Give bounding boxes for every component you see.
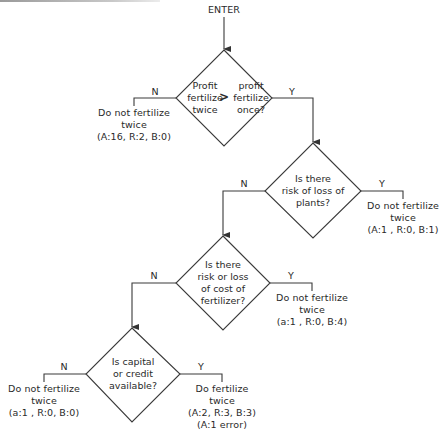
d1-no-connector — [134, 98, 176, 106]
outcome-1-line3: (A:16, R:2, B:0) — [97, 131, 171, 143]
d1-greater-than-operator: > — [219, 90, 229, 104]
outcome-5-line4: (A:1 error) — [188, 419, 256, 431]
d3-no-connector — [132, 283, 176, 327]
d4-question-text: Is capital or credit available? — [109, 356, 157, 392]
d2-yes-label: Y — [379, 178, 385, 189]
outcome-4-line1: Do not fertilize — [8, 383, 80, 395]
outcome-3-line2: twice — [276, 304, 348, 316]
enter-label: ENTER — [208, 4, 240, 16]
d3-yes-connector — [270, 283, 312, 291]
d1-yes-label: Y — [289, 86, 295, 97]
outcome-1: Do not fertilize twice (A:16, R:2, B:0) — [97, 107, 171, 143]
outcome-1-line2: twice — [97, 119, 171, 131]
outcome-5-line2: twice — [188, 395, 256, 407]
outcome-5: Do fertilize twice (A:2, R:3, B:3) (A:1 … — [188, 383, 256, 431]
d2-yes-connector — [361, 191, 403, 199]
d2-no-connector — [223, 191, 265, 235]
d4-yes-label: Y — [198, 361, 204, 372]
outcome-2-line2: twice — [367, 212, 439, 224]
d1-no-label: N — [151, 86, 158, 97]
d1-right-text: profit fertilize once? — [229, 80, 273, 116]
outcome-1-line1: Do not fertilize — [97, 107, 171, 119]
outcome-2: Do not fertilize twice (A:1 , R:0, B:1) — [367, 200, 439, 236]
outcome-4-line2: twice — [8, 395, 80, 407]
outcome-3: Do not fertilize twice (a:1 , R:0, B:4) — [276, 292, 348, 328]
outcome-2-line1: Do not fertilize — [367, 200, 439, 212]
d3-question-text: Is there risk or loss of cost of fertili… — [197, 259, 248, 307]
outcome-5-line1: Do fertilize — [188, 383, 256, 395]
d3-no-label: N — [150, 270, 157, 281]
d2-question-text: Is there risk of loss of plants? — [282, 173, 345, 209]
outcome-4-line3: (a:1 , R:0, B:0) — [8, 407, 80, 419]
d3-yes-label: Y — [288, 270, 294, 281]
d4-yes-connector — [180, 374, 222, 382]
outcome-3-line1: Do not fertilize — [276, 292, 348, 304]
d1-yes-connector — [272, 98, 313, 142]
d4-no-connector — [44, 374, 86, 382]
d2-no-label: N — [240, 178, 247, 189]
outcome-4: Do not fertilize twice (a:1 , R:0, B:0) — [8, 383, 80, 419]
d4-no-label: N — [60, 361, 67, 372]
outcome-5-line3: (A:2, R:3, B:3) — [188, 407, 256, 419]
outcome-3-line3: (a:1 , R:0, B:4) — [276, 316, 348, 328]
outcome-2-line3: (A:1 , R:0, B:1) — [367, 224, 439, 236]
